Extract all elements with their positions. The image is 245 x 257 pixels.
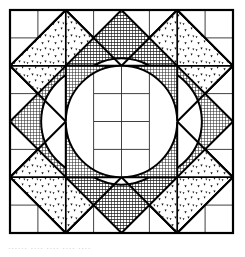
caption-text: ······ ···· ···· ···· ···· <box>8 244 178 253</box>
block-contents <box>10 10 233 233</box>
quilt-block-svg <box>0 0 245 257</box>
figure-root: ······ ···· ···· ···· ···· <box>0 0 245 257</box>
